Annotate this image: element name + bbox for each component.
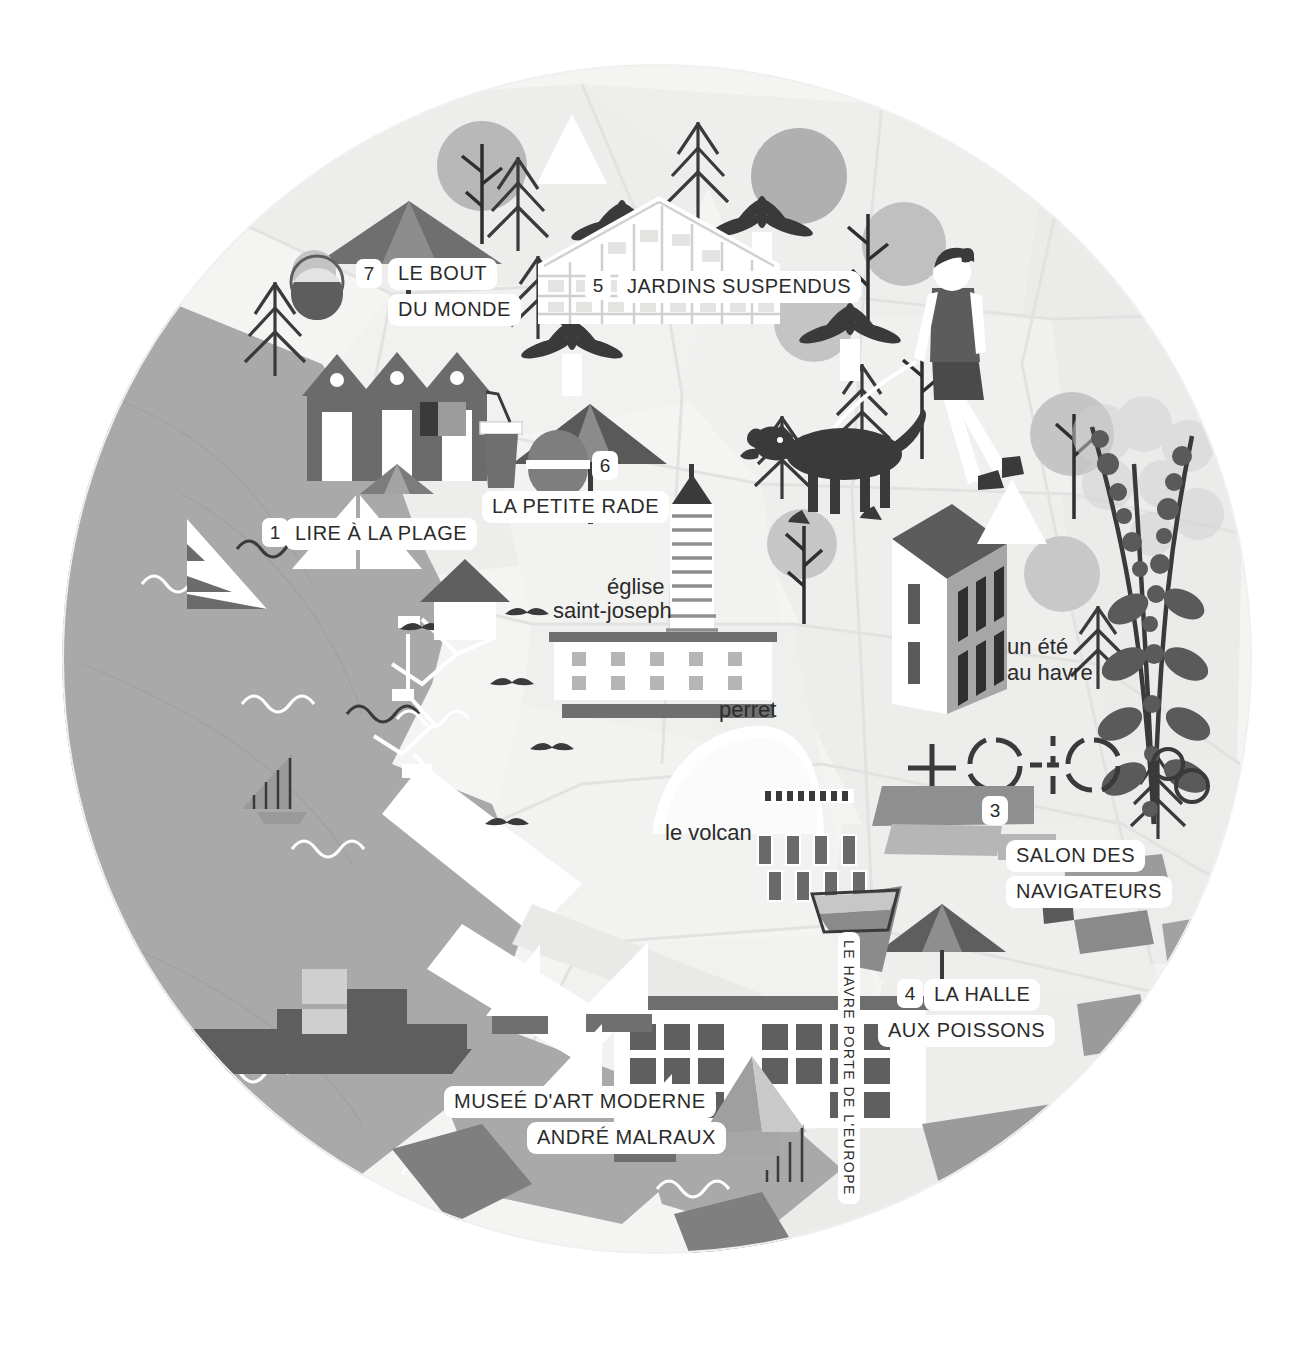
label-la-petite-rade[interactable]: LA PETITE RADE [482,491,669,523]
map-artwork [62,64,1252,1254]
label-saint-joseph-line2: saint-joseph [553,598,672,623]
label-la-halle-line1[interactable]: LA HALLE [924,979,1040,1011]
label-un-ete-line1: un été [1007,634,1068,661]
label-andre-malraux[interactable]: ANDRÉ MALRAUX [527,1122,726,1154]
marker-number-3[interactable]: 3 [982,796,1008,825]
marker-number-6[interactable]: 6 [592,451,618,480]
label-navigateurs-line2[interactable]: NAVIGATEURS [1006,876,1172,908]
marker-number-4[interactable]: 4 [897,979,923,1008]
label-musee-art-moderne[interactable]: MUSEÉ D'ART MODERNE [444,1086,716,1118]
marker-number-5[interactable]: 5 [585,271,611,300]
label-jardins-suspendus[interactable]: JARDINS SUSPENDUS [617,271,861,303]
label-aux-poissons-line2[interactable]: AUX POISSONS [878,1015,1055,1047]
burger-icon [526,430,590,499]
label-le-havre-porte-de-leurope: LE HAVRE PORTE DE L'EUROPE [838,932,860,1204]
label-le-bout-du-monde-line2[interactable]: DU MONDE [388,294,521,326]
marker-number-7[interactable]: 7 [356,259,382,288]
beach-hut-icons [302,352,492,481]
label-eglise-line1: église [607,574,664,599]
label-lire-a-la-plage[interactable]: LIRE À LA PLAGE [285,518,477,550]
label-le-bout-du-monde-line1[interactable]: LE BOUT [388,258,497,290]
illustrated-map-page: 7 LE BOUT DU MONDE 5 JARDINS SUSPENDUS 6… [0,0,1309,1354]
label-salon-des-line1[interactable]: SALON DES [1006,840,1145,872]
label-perret: perret [719,697,776,722]
label-au-havre-line2: au havre [1007,660,1093,687]
label-le-volcan: le volcan [665,820,752,845]
map-circle [62,64,1252,1254]
